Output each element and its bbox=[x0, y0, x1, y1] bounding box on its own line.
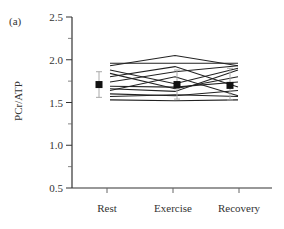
subject-line bbox=[110, 56, 238, 66]
y-axis-label: PCr/ATP bbox=[12, 81, 24, 121]
x-axis: RestExerciseRecovery bbox=[72, 188, 272, 214]
x-tick-label: Rest bbox=[97, 202, 117, 214]
y-tick-label: 1.0 bbox=[49, 139, 63, 151]
y-tick-label: 1.5 bbox=[49, 97, 63, 109]
pcr-atp-chart: (a) 0.51.01.52.02.5 RestExerciseRecovery… bbox=[0, 0, 284, 229]
y-tick-label: 0.5 bbox=[49, 182, 63, 194]
mean-marker bbox=[227, 82, 234, 89]
subject-line bbox=[110, 100, 238, 101]
subject-lines bbox=[110, 56, 238, 101]
y-tick-label: 2.5 bbox=[49, 11, 63, 23]
x-tick-label: Recovery bbox=[218, 202, 261, 214]
mean-marker bbox=[174, 81, 181, 88]
x-tick-label: Exercise bbox=[154, 202, 192, 214]
y-tick-label: 2.0 bbox=[49, 54, 63, 66]
y-axis: 0.51.01.52.02.5 bbox=[49, 11, 72, 194]
mean-marker bbox=[96, 81, 103, 88]
panel-label: (a) bbox=[9, 15, 22, 28]
